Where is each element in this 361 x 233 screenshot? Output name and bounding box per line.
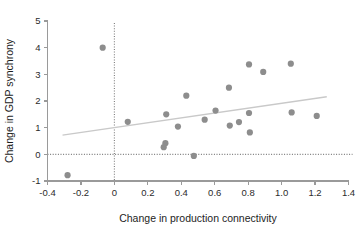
data-point	[202, 117, 208, 123]
chart-canvas: -0.4-0.200.20.40.60.81.01.21.4-1012345Ch…	[0, 0, 361, 233]
x-tick-label: 0.8	[242, 187, 255, 198]
y-tick-label: 2	[35, 95, 40, 106]
data-point	[163, 111, 169, 117]
x-tick-label: 0.4	[175, 187, 188, 198]
y-tick-label: 4	[35, 42, 40, 53]
data-point	[246, 110, 252, 116]
data-point	[246, 61, 252, 67]
data-point	[125, 119, 131, 125]
scatter-chart: -0.4-0.200.20.40.60.81.01.21.4-1012345Ch…	[0, 0, 361, 233]
data-point	[175, 124, 181, 130]
x-tick-label: 1.2	[308, 187, 321, 198]
x-axis-title: Change in production connectivity	[119, 212, 277, 224]
y-tick-label: 5	[35, 15, 40, 26]
x-tick-label: 0	[112, 187, 117, 198]
x-tick-label: -0.2	[73, 187, 89, 198]
data-point	[100, 45, 106, 51]
y-tick-label: 0	[35, 149, 40, 160]
data-point	[236, 119, 242, 125]
data-point-group	[64, 45, 319, 179]
data-point	[227, 122, 233, 128]
data-point	[288, 61, 294, 67]
data-point	[191, 153, 197, 159]
data-point	[162, 140, 168, 146]
data-point	[314, 113, 320, 119]
data-point	[183, 93, 189, 99]
x-tick-label: -0.4	[39, 187, 55, 198]
x-tick-label: 1.0	[275, 187, 288, 198]
x-tick-label: 0.2	[141, 187, 154, 198]
data-point	[64, 172, 70, 178]
trend-line	[63, 97, 327, 135]
x-tick-label: 0.6	[208, 187, 221, 198]
y-tick-label: 1	[35, 122, 40, 133]
y-tick-label: -1	[32, 175, 40, 186]
data-point	[260, 69, 266, 75]
data-point	[289, 109, 295, 115]
x-tick-label: 1.4	[342, 187, 355, 198]
data-point	[212, 108, 218, 114]
data-point	[247, 129, 253, 135]
y-tick-label: 3	[35, 69, 40, 80]
y-axis-title: Change in GDP synchrony	[3, 38, 15, 163]
data-point	[226, 85, 232, 91]
